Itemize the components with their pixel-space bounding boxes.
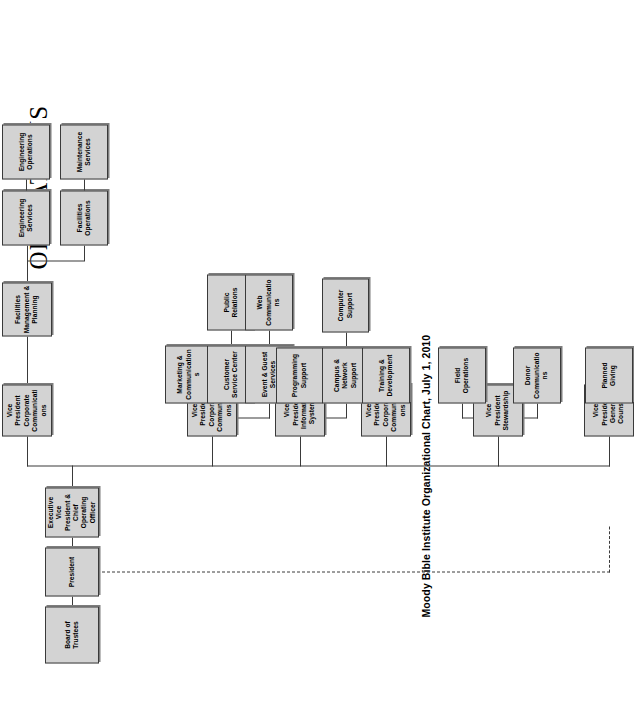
connector-fmp-engineering-services [27, 245, 28, 261]
node-president[interactable]: President [45, 547, 99, 596]
connector-trunk-vp-communications [212, 436, 213, 466]
node-computer-support[interactable]: ComputerSupport [322, 278, 369, 332]
node-label: PublicRelations [223, 287, 240, 317]
node-label: President [68, 556, 76, 587]
connector-vpis-campusnetwork [346, 403, 347, 418]
node-label: FacilitiesOperations [76, 200, 93, 235]
connector-trunk-vp-facilities [27, 436, 28, 466]
connector-board-president [72, 596, 73, 606]
connector-trunk-vp-corporate [386, 436, 387, 466]
node-planned-giving[interactable]: PlannedGiving [585, 347, 633, 403]
connector-vpstew-donorcomm [537, 403, 538, 418]
connector-facops-maintsvc-link [84, 179, 85, 190]
connector-president-generalcounsel-vertical [102, 571, 610, 572]
node-label: Marketing &Communications [176, 348, 201, 400]
node-vice-president-facilities-branch[interactable]: Vice PresidentCorporateCommunications [2, 384, 52, 436]
connector-trunk-vp-stewardship [498, 436, 499, 466]
node-facilities-operations[interactable]: FacilitiesOperations [60, 190, 108, 245]
node-label: ExecutiveVice President &Chief Operating… [47, 490, 98, 534]
connector-vpstew-fieldops [462, 403, 463, 418]
node-executive-vice-president-coo[interactable]: ExecutiveVice President &Chief Operating… [45, 487, 99, 537]
node-label: Campus &NetworkSupport [333, 359, 358, 392]
node-label: DonorCommunications [524, 350, 549, 400]
connector-president-evp [72, 537, 73, 547]
node-label: Vice PresidentCorporateCommunications [6, 387, 48, 433]
node-facilities-management-planning[interactable]: FacilitiesManagement &Planning [2, 282, 52, 336]
node-label: ProgrammingSupport [291, 353, 308, 396]
node-label: MaintenanceServices [76, 131, 93, 172]
node-label: Board of Trustees [64, 609, 81, 660]
connector-evp-trunk-stub [72, 465, 73, 487]
node-field-operations[interactable]: FieldOperations [438, 347, 486, 403]
node-engineering-operations[interactable]: EngineeringOperations [2, 124, 50, 179]
connector-evp-trunk [27, 465, 610, 466]
node-label: Vice PresidentStewardship [485, 387, 510, 433]
connector-fmp-bus [27, 260, 84, 261]
chart-caption: Moody Bible Institute Organizational Cha… [420, 334, 432, 617]
node-label: EngineeringOperations [18, 132, 35, 171]
connector-fmp-stub [27, 260, 28, 282]
node-web-communications[interactable]: WebCommunications [245, 274, 293, 330]
node-label: ComputerSupport [337, 289, 354, 321]
node-donor-communications[interactable]: DonorCommunications [513, 347, 561, 403]
connector-president-generalcounsel-horizontal [609, 526, 610, 572]
node-maintenance-services[interactable]: MaintenanceServices [60, 124, 108, 179]
node-programming-support[interactable]: ProgrammingSupport [276, 347, 323, 403]
node-label: WebCommunications [256, 277, 281, 327]
connector-eventguest-webcomm [269, 330, 270, 345]
node-engineering-services[interactable]: EngineeringServices [2, 190, 50, 245]
node-training-development[interactable]: Training &Development [362, 347, 410, 403]
node-label: Event & GuestServices [261, 351, 278, 397]
node-label: EngineeringServices [18, 198, 35, 237]
connector-engsvc-engops-link [26, 179, 27, 190]
connector-campusnetwork-computersupport [346, 332, 347, 347]
connector-fmp-facilities-operations [84, 245, 85, 261]
connector-customer-publicrelations [231, 330, 232, 345]
node-label: Training &Development [378, 354, 395, 396]
node-label: PlannedGiving [601, 362, 618, 388]
connector-trunk-vp-generalcounsel [609, 436, 610, 466]
node-board-of-trustees[interactable]: Board of Trustees [45, 606, 99, 663]
node-label: FacilitiesManagement &Planning [14, 285, 39, 333]
connector-trunk-vp-infosystems [300, 436, 301, 466]
node-label: FieldOperations [454, 357, 471, 392]
connector-vpcomm-eventguest [269, 403, 270, 418]
node-marketing-communications[interactable]: Marketing &Communications [165, 345, 213, 403]
node-label: CustomerService Center [223, 351, 240, 398]
